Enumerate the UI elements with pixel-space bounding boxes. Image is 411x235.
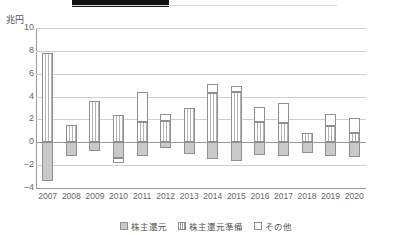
bar-segment-return-2011: [137, 142, 148, 156]
y-tick-label: 2: [4, 114, 34, 123]
bar-segment-other-2019: [325, 114, 336, 127]
x-tick-label-2009: 2009: [83, 192, 107, 201]
plot-area: [36, 28, 366, 188]
x-tick-label-2011: 2011: [130, 192, 154, 201]
legend-item-prep[interactable]: 株主還元準備: [178, 220, 243, 232]
bar-group-2008: [66, 28, 77, 188]
bar-segment-prep-2018: [302, 133, 313, 142]
legend-label-other: その他: [265, 220, 292, 232]
bar-segment-return-2012: [160, 142, 171, 148]
x-tick-label-2020: 2020: [342, 192, 366, 201]
x-axis-labels: 2007200820092010201120122013201420152016…: [36, 192, 366, 206]
gridline--2: [36, 165, 366, 166]
y-tick-label: −2: [4, 160, 34, 169]
bar-segment-other-2016: [254, 107, 265, 122]
bar-segment-return-2007: [42, 142, 53, 181]
x-tick-label-2016: 2016: [248, 192, 272, 201]
bar-segment-return-2015: [231, 142, 242, 160]
bar-segment-prep-2008: [66, 125, 77, 142]
bar-group-2009: [89, 28, 100, 188]
bar-segment-prep-2017: [278, 123, 289, 142]
bar-segment-prep-2015: [231, 92, 242, 142]
x-tick-label-2008: 2008: [60, 192, 84, 201]
bar-segment-return-2019: [325, 142, 336, 156]
y-axis-ticks: 1086420−2−4: [0, 28, 34, 188]
bar-group-2018: [302, 28, 313, 188]
x-tick-label-2015: 2015: [225, 192, 249, 201]
bar-segment-prep-2009: [89, 101, 100, 142]
bar-group-2010: [113, 28, 124, 188]
bar-segment-other-2017: [278, 103, 289, 122]
bar-segment-prep-2011: [137, 122, 148, 143]
legend-item-other[interactable]: その他: [254, 220, 292, 232]
bar-segment-return-2013: [184, 142, 195, 153]
x-tick-label-2012: 2012: [154, 192, 178, 201]
bar-segment-prep-2014: [207, 93, 218, 142]
gridline-8: [36, 51, 366, 52]
y-axis-line: [36, 28, 37, 188]
title-underline: [72, 5, 337, 6]
bar-segment-return-2014: [207, 142, 218, 159]
gridline-4: [36, 97, 366, 98]
y-tick-label: 10: [4, 23, 34, 32]
bar-segment-other-2020: [349, 118, 360, 133]
bar-group-2020: [349, 28, 360, 188]
y-tick-label: 4: [4, 92, 34, 101]
legend-label-prep: 株主還元準備: [189, 220, 243, 232]
bar-segment-prep-2013: [184, 108, 195, 142]
bar-segment-prep-2020: [349, 133, 360, 142]
bar-group-2013: [184, 28, 195, 188]
bar-segment-other-2014: [207, 84, 218, 93]
bar-group-2007: [42, 28, 53, 188]
y-tick-label: 6: [4, 69, 34, 78]
white-swatch: [254, 222, 262, 230]
bar-segment-prep-2012: [160, 121, 171, 143]
x-tick-label-2014: 2014: [201, 192, 225, 201]
x-tick-label-2017: 2017: [272, 192, 296, 201]
bar-group-2012: [160, 28, 171, 188]
bar-segment-prep-2010: [113, 115, 124, 142]
bar-segment-other-2015: [231, 86, 242, 92]
bar-group-2016: [254, 28, 265, 188]
bar-segment-return-2018: [302, 142, 313, 152]
solid-grey-swatch: [120, 222, 128, 230]
legend-label-return: 株主還元: [131, 220, 167, 232]
bar-segment-prep-2016: [254, 122, 265, 143]
gridline-2: [36, 119, 366, 120]
bar-group-2011: [137, 28, 148, 188]
bar-group-2014: [207, 28, 218, 188]
legend-item-return[interactable]: 株主還元: [120, 220, 167, 232]
y-tick-label: 0: [4, 137, 34, 146]
bar-segment-other-2011: [137, 92, 148, 122]
bar-segment-return-2017: [278, 142, 289, 156]
chart-container: 兆円 1086420−2−4 2007200820092010201120122…: [0, 0, 411, 235]
gridline-6: [36, 74, 366, 75]
bar-group-2019: [325, 28, 336, 188]
bar-segment-return-2016: [254, 142, 265, 155]
bar-segment-prep-2019: [325, 126, 336, 142]
x-tick-label-2007: 2007: [36, 192, 60, 201]
bar-group-2015: [231, 28, 242, 188]
gridline--4: [36, 188, 366, 189]
bar-segment-other-2012: [160, 114, 171, 121]
striped-swatch: [178, 222, 186, 230]
x-tick-label-2018: 2018: [295, 192, 319, 201]
y-tick-label: −4: [4, 183, 34, 192]
bar-segment-return-2009: [89, 142, 100, 151]
x-tick-label-2019: 2019: [319, 192, 343, 201]
x-tick-label-2013: 2013: [177, 192, 201, 201]
bar-segment-prep-2007: [42, 53, 53, 142]
x-tick-label-2010: 2010: [107, 192, 131, 201]
gridline-10: [36, 28, 366, 29]
y-tick-label: 8: [4, 46, 34, 55]
bar-segment-other-2010: [113, 158, 124, 163]
chart-legend: 株主還元株主還元準備その他: [0, 218, 411, 233]
bar-segment-return-2010: [113, 142, 124, 158]
bar-segment-return-2008: [66, 142, 77, 156]
gridline-0: [36, 142, 366, 143]
bar-group-2017: [278, 28, 289, 188]
bar-segment-return-2020: [349, 142, 360, 157]
